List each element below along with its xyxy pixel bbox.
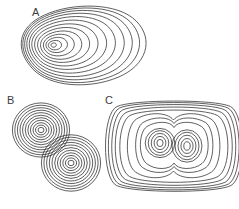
panel-c-contours <box>105 101 239 191</box>
contour-figure: A B C <box>0 0 239 209</box>
panel-label-a: A <box>32 7 39 18</box>
contour-plot-canvas <box>0 0 239 209</box>
figure-caption-partial <box>0 201 239 209</box>
panel-label-b: B <box>7 95 14 106</box>
panel-b-contours <box>12 103 100 191</box>
panel-a-contours <box>21 6 146 85</box>
panel-label-c: C <box>105 95 113 106</box>
